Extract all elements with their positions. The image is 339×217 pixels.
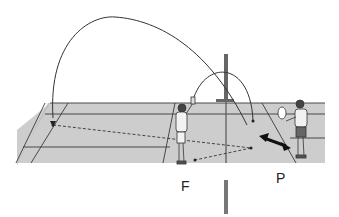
badminton-court-diagram (0, 0, 339, 217)
label-player-p: P (276, 170, 285, 186)
label-player-f: F (181, 178, 190, 194)
